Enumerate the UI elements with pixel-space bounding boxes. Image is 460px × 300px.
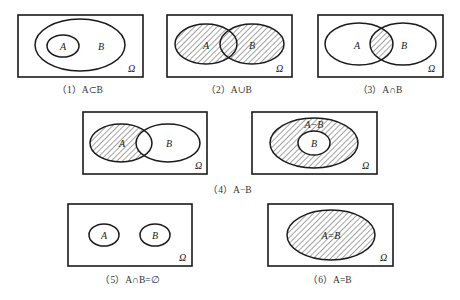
caption-difference: （4）A−B (208, 184, 251, 195)
set-a-label: A (202, 40, 210, 51)
panel-equal: A=B Ω （6）A=B (268, 204, 393, 285)
panel-disjoint: A B Ω （5）A∩B=∅ (68, 204, 192, 285)
set-ab-label: A=B (321, 230, 341, 241)
omega-label: Ω (195, 160, 202, 171)
panel-subset: A B Ω （1）A⊂B (18, 15, 143, 95)
set-a-label: A (118, 138, 126, 149)
set-b-label: B (98, 41, 104, 52)
difference-label: A−B (304, 119, 324, 130)
venn-diagram-figure: A B Ω （1）A⊂B A B Ω （2）A∪B A B Ω （3）A∩B A… (0, 0, 460, 300)
caption: （1）A⊂B (57, 84, 103, 95)
universe-frame (68, 204, 192, 266)
set-b-ellipse (35, 19, 125, 71)
omega-label: Ω (362, 160, 369, 171)
panel-intersection: A B Ω （3）A∩B (318, 15, 443, 95)
omega-label: Ω (128, 63, 135, 74)
omega-label: Ω (276, 63, 283, 74)
set-b-label: B (152, 230, 158, 241)
set-a-label: A (353, 40, 361, 51)
caption: （2）A∪B (206, 84, 252, 95)
caption: （6）A=B (308, 274, 351, 285)
caption: （5）A∩B=∅ (100, 274, 159, 285)
panel-difference-nested: A−B B Ω (252, 112, 377, 174)
set-b-label: B (401, 40, 407, 51)
set-a-label: A (100, 230, 108, 241)
panel-difference-overlap: A B Ω (83, 112, 207, 174)
omega-label: Ω (179, 252, 186, 263)
omega-label: Ω (428, 63, 435, 74)
panel-union: A B Ω （2）A∪B (167, 15, 292, 95)
set-b-label: B (311, 138, 317, 149)
set-b-label: B (166, 138, 172, 149)
set-a-label: A (59, 41, 67, 52)
set-b-label: B (249, 40, 255, 51)
caption: （3）A∩B (358, 84, 403, 95)
omega-label: Ω (380, 252, 387, 263)
